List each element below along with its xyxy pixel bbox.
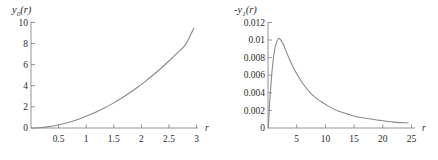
left-ytick-label: 8 xyxy=(23,39,28,49)
right-plot-svg: -y1(r) 0.012 0.01 0.008 0.006 0.004 0.00… xyxy=(219,0,438,160)
right-ytick-label: 0.002 xyxy=(244,106,266,116)
left-y-axis-title-arg: (r) xyxy=(20,4,32,16)
right-y-axis-title: -y1(r) xyxy=(234,4,257,18)
left-plot-svg: y0(r) 10 8 6 4 2 0 0.5 1 1.5 2 2.5 xyxy=(0,0,219,160)
left-data-curve xyxy=(31,28,194,128)
right-x-axis-name: r xyxy=(422,123,426,133)
right-xtick-label: 25 xyxy=(407,134,417,144)
right-ytick-label: 0.01 xyxy=(248,35,265,45)
plot-panel-left: y0(r) 10 8 6 4 2 0 0.5 1 1.5 2 2.5 xyxy=(0,0,219,160)
figure-container: y0(r) 10 8 6 4 2 0 0.5 1 1.5 2 2.5 xyxy=(0,0,438,160)
right-ytick-label: 0.012 xyxy=(244,18,266,28)
right-ytick-label: 0.008 xyxy=(244,53,266,63)
left-xtick-label: 1.5 xyxy=(108,134,120,144)
right-xtick-label: 10 xyxy=(321,134,331,144)
left-ytick-label: 0 xyxy=(23,123,28,133)
left-xtick-label: 0.5 xyxy=(53,134,65,144)
left-y-axis-title: y0(r) xyxy=(11,4,32,18)
right-ytick-label: 0.004 xyxy=(244,88,266,98)
right-y-axis-title-arg: (r) xyxy=(246,4,258,16)
left-xtick-label: 2 xyxy=(139,134,144,144)
left-ytick-label: 6 xyxy=(23,60,28,70)
right-data-curve xyxy=(268,38,408,128)
left-xtick-label: 2.5 xyxy=(163,134,175,144)
right-xtick-label: 15 xyxy=(349,134,359,144)
right-ytick-label: 0 xyxy=(260,123,265,133)
left-ytick-label: 10 xyxy=(19,18,29,28)
left-xtick-label: 1 xyxy=(84,134,89,144)
right-xtick-label: 20 xyxy=(378,134,388,144)
left-x-axis-name: r xyxy=(205,123,209,133)
left-xtick-label: 3 xyxy=(194,134,199,144)
left-ytick-label: 2 xyxy=(23,102,28,112)
right-ytick-label: 0.006 xyxy=(244,70,266,80)
plot-panel-right: -y1(r) 0.012 0.01 0.008 0.006 0.004 0.00… xyxy=(219,0,438,160)
left-ytick-label: 4 xyxy=(23,81,28,91)
right-xtick-label: 5 xyxy=(294,134,299,144)
